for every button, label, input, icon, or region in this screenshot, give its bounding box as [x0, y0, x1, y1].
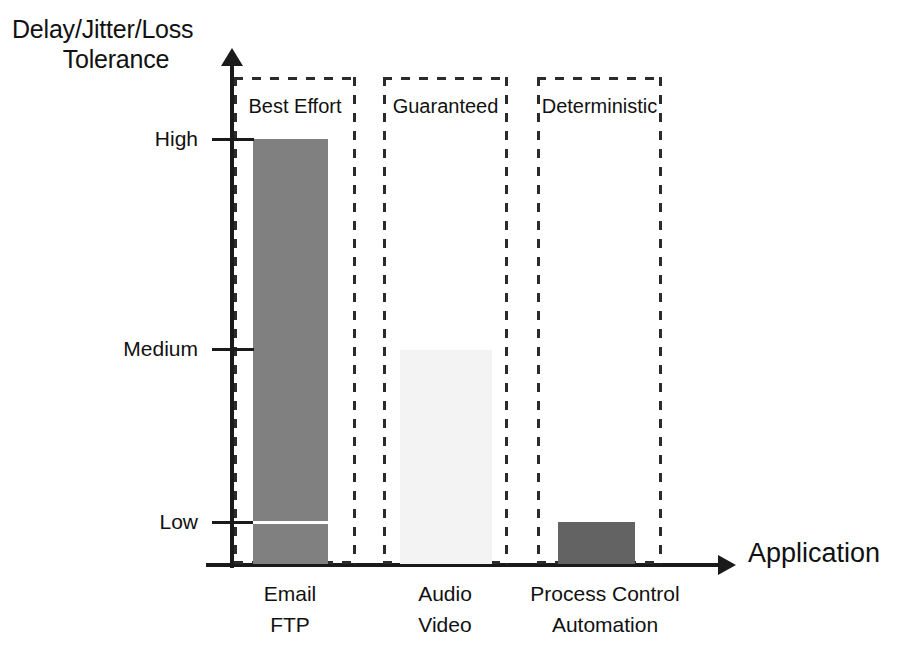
category-caption-process-control: Process Control — [510, 578, 700, 609]
category-caption-process-control-automation: Process Control Automation — [510, 578, 700, 640]
category-caption-video: Video — [370, 609, 520, 640]
y-tick-label-medium-wrap: Medium — [78, 337, 198, 361]
service-class-label-best-effort: Best Effort — [234, 95, 356, 118]
x-axis-arrow-icon — [718, 555, 736, 575]
y-axis-arrow-icon — [221, 48, 243, 66]
y-tick-mark-low-over-bar — [253, 521, 328, 524]
y-axis-title: Delay/Jitter/Loss Tolerance — [12, 14, 242, 74]
y-tick-mark-medium — [212, 348, 254, 351]
y-tick-mark-low — [212, 521, 254, 524]
category-caption-ftp: FTP — [215, 609, 365, 640]
category-caption-email-ftp: Email FTP — [215, 578, 365, 640]
x-axis-title: Application — [748, 538, 880, 569]
service-class-label-guaranteed: Guaranteed — [383, 95, 508, 118]
y-tick-label-high: High — [78, 127, 198, 151]
category-caption-automation: Automation — [510, 609, 700, 640]
y-tick-mark-high — [212, 138, 254, 141]
bar-audio-video — [400, 350, 492, 564]
y-tick-label-high-wrap: High — [78, 127, 198, 151]
y-tick-label-medium: Medium — [78, 337, 198, 361]
bar-email-ftp — [253, 139, 328, 564]
y-tick-label-low: Low — [78, 510, 198, 534]
y-axis-title-line2: Tolerance — [12, 44, 242, 74]
y-axis-title-line1: Delay/Jitter/Loss — [12, 14, 242, 44]
category-caption-audio: Audio — [370, 578, 520, 609]
y-tick-label-low-wrap: Low — [78, 510, 198, 534]
service-class-label-deterministic: Deterministic — [537, 95, 662, 118]
category-caption-audio-video: Audio Video — [370, 578, 520, 640]
service-class-box-deterministic: Deterministic — [537, 77, 662, 564]
bar-process-control-automation — [558, 522, 635, 564]
category-caption-email: Email — [215, 578, 365, 609]
chart-container: Delay/Jitter/Loss Tolerance Application … — [0, 0, 915, 660]
